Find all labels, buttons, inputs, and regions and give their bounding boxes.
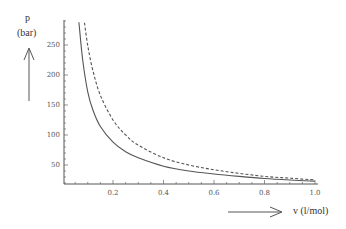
y-axis-label-unit: (bar)	[17, 27, 36, 38]
y-arrow-icon	[24, 48, 34, 101]
series-solid-line	[79, 22, 315, 181]
series-lines	[79, 22, 315, 181]
x-axis: 0.20.40.60.81.0	[64, 180, 321, 197]
x-tick-label: 1.0	[309, 189, 320, 197]
x-arrow-icon	[228, 207, 282, 217]
x-tick-label: 0.8	[259, 189, 270, 197]
y-tick-label: 200	[47, 71, 60, 79]
y-tick-label: 250	[47, 41, 60, 49]
x-axis-label: v (l/mol)	[293, 205, 328, 216]
y-tick-label: 100	[47, 131, 60, 139]
x-tick-label: 0.6	[208, 189, 220, 197]
x-tick-label: 0.4	[158, 189, 170, 197]
chart-canvas: 50100150200250 0.20.40.60.81.0	[0, 0, 346, 229]
y-axis-label-symbol: p	[25, 12, 30, 23]
y-tick-label: 150	[47, 101, 60, 109]
x-tick-label: 0.2	[107, 189, 118, 197]
y-tick-label: 50	[51, 161, 60, 169]
y-axis: 50100150200250	[47, 20, 68, 184]
series-dashed-line	[84, 23, 315, 180]
